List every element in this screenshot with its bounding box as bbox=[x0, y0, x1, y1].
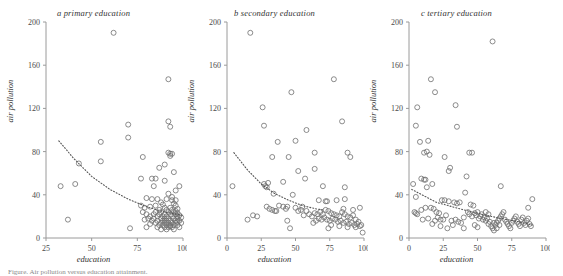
y-tick-label: 40 bbox=[213, 191, 221, 200]
panel-a-plot: 04080120160200255075100 bbox=[0, 0, 187, 274]
x-tick-label: 100 bbox=[540, 244, 550, 253]
y-tick-label: 40 bbox=[32, 191, 40, 200]
x-tick-label: 75 bbox=[326, 244, 334, 253]
scatter-points bbox=[230, 30, 365, 235]
chart-panel-b: b secondary education air pollution educ… bbox=[181, 0, 368, 274]
y-tick-label: 120 bbox=[391, 104, 403, 113]
y-tick-label: 120 bbox=[28, 104, 40, 113]
y-tick-label: 200 bbox=[209, 18, 221, 27]
y-tick-label: 40 bbox=[395, 191, 403, 200]
x-tick-label: 25 bbox=[439, 244, 447, 253]
chart-panel-a: a primary education air pollution educat… bbox=[0, 0, 187, 274]
y-tick-label: 80 bbox=[213, 148, 221, 157]
x-tick-label: 25 bbox=[42, 244, 50, 253]
chart-panel-c: c tertiary education air pollution educa… bbox=[363, 0, 550, 274]
y-tick-label: 0 bbox=[399, 234, 403, 243]
y-tick-label: 0 bbox=[36, 234, 40, 243]
y-tick-label: 160 bbox=[28, 61, 40, 70]
panel-c-plot: 040801201602000255075100 bbox=[363, 0, 550, 274]
x-tick-label: 75 bbox=[133, 244, 141, 253]
y-tick-label: 160 bbox=[391, 61, 403, 70]
x-tick-label: 50 bbox=[474, 244, 482, 253]
scatter-points bbox=[58, 30, 184, 232]
panel-b-plot: 040801201602000255075100 bbox=[181, 0, 368, 274]
x-tick-label: 50 bbox=[292, 244, 300, 253]
y-tick-label: 0 bbox=[217, 234, 221, 243]
y-tick-label: 200 bbox=[391, 18, 403, 27]
y-tick-label: 120 bbox=[209, 104, 221, 113]
y-tick-label: 160 bbox=[209, 61, 221, 70]
x-tick-label: 0 bbox=[407, 244, 411, 253]
y-tick-label: 200 bbox=[28, 18, 40, 27]
y-tick-label: 80 bbox=[32, 148, 40, 157]
scatter-points bbox=[411, 39, 535, 233]
x-tick-label: 0 bbox=[225, 244, 229, 253]
x-tick-label: 75 bbox=[508, 244, 516, 253]
figure-caption: Figure. Air pollution versus education a… bbox=[8, 268, 556, 276]
x-tick-label: 25 bbox=[257, 244, 265, 253]
x-tick-label: 50 bbox=[88, 244, 96, 253]
trend-line bbox=[234, 153, 323, 210]
y-tick-label: 80 bbox=[395, 148, 403, 157]
